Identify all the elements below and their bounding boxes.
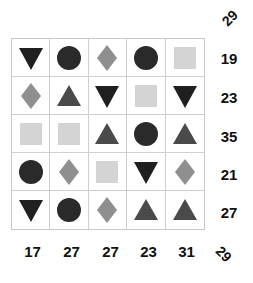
- diamond-icon: [94, 197, 120, 223]
- cell-r3-c2: [50, 115, 88, 153]
- cell-r5-c1: [12, 191, 50, 229]
- triangle-up-icon: [133, 197, 159, 223]
- puzzle-grid: [11, 38, 205, 230]
- triangle-up-icon: [172, 197, 198, 223]
- circle-icon: [133, 121, 159, 147]
- triangle-up-icon: [94, 121, 120, 147]
- cell-r1-c5: [166, 39, 204, 77]
- col-sum-5: 31: [167, 243, 206, 260]
- cell-r3-c4: [127, 115, 165, 153]
- triangle-up-icon: [172, 121, 198, 147]
- circle-icon: [56, 45, 82, 71]
- triangle-down-icon: [18, 197, 44, 223]
- cell-r3-c1: [12, 115, 50, 153]
- cell-r4-c5: [166, 153, 204, 191]
- diamond-icon: [56, 159, 82, 185]
- cell-r1-c4: [127, 39, 165, 77]
- cell-r2-c3: [89, 77, 127, 115]
- row-sum-5: 27: [214, 204, 244, 221]
- cell-r1-c3: [89, 39, 127, 77]
- triangle-down-icon: [133, 159, 159, 185]
- row-sum-4: 21: [214, 166, 244, 183]
- triangle-up-icon: [56, 83, 82, 109]
- cell-r5-c3: [89, 191, 127, 229]
- circle-icon: [18, 159, 44, 185]
- cell-r1-c1: [12, 39, 50, 77]
- diamond-icon: [94, 45, 120, 71]
- cell-r2-c5: [166, 77, 204, 115]
- cell-r5-c5: [166, 191, 204, 229]
- col-sum-1: 17: [13, 243, 52, 260]
- col-sum-2: 27: [52, 243, 91, 260]
- col-sum-4: 23: [129, 243, 168, 260]
- square-icon: [133, 83, 159, 109]
- diamond-icon: [172, 159, 198, 185]
- cell-r2-c4: [127, 77, 165, 115]
- cell-r5-c2: [50, 191, 88, 229]
- cell-r3-c3: [89, 115, 127, 153]
- cell-r1-c2: [50, 39, 88, 77]
- circle-icon: [56, 197, 82, 223]
- cell-r4-c2: [50, 153, 88, 191]
- diamond-icon: [18, 83, 44, 109]
- square-icon: [18, 121, 44, 147]
- circle-icon: [133, 45, 159, 71]
- row-sum-2: 23: [214, 89, 244, 106]
- square-icon: [172, 45, 198, 71]
- triangle-down-icon: [172, 83, 198, 109]
- col-sum-3: 27: [91, 243, 130, 260]
- triangle-down-icon: [94, 83, 120, 109]
- cell-r2-c1: [12, 77, 50, 115]
- cell-r4-c3: [89, 153, 127, 191]
- triangle-down-icon: [18, 45, 44, 71]
- cell-r2-c2: [50, 77, 88, 115]
- main-diagonal-sum: 29: [213, 243, 235, 265]
- anti-diagonal-sum: 29: [219, 7, 241, 29]
- cell-r3-c5: [166, 115, 204, 153]
- square-icon: [56, 121, 82, 147]
- row-sum-1: 19: [214, 50, 244, 67]
- square-icon: [94, 159, 120, 185]
- cell-r4-c1: [12, 153, 50, 191]
- cell-r4-c4: [127, 153, 165, 191]
- row-sum-3: 35: [214, 128, 244, 145]
- cell-r5-c4: [127, 191, 165, 229]
